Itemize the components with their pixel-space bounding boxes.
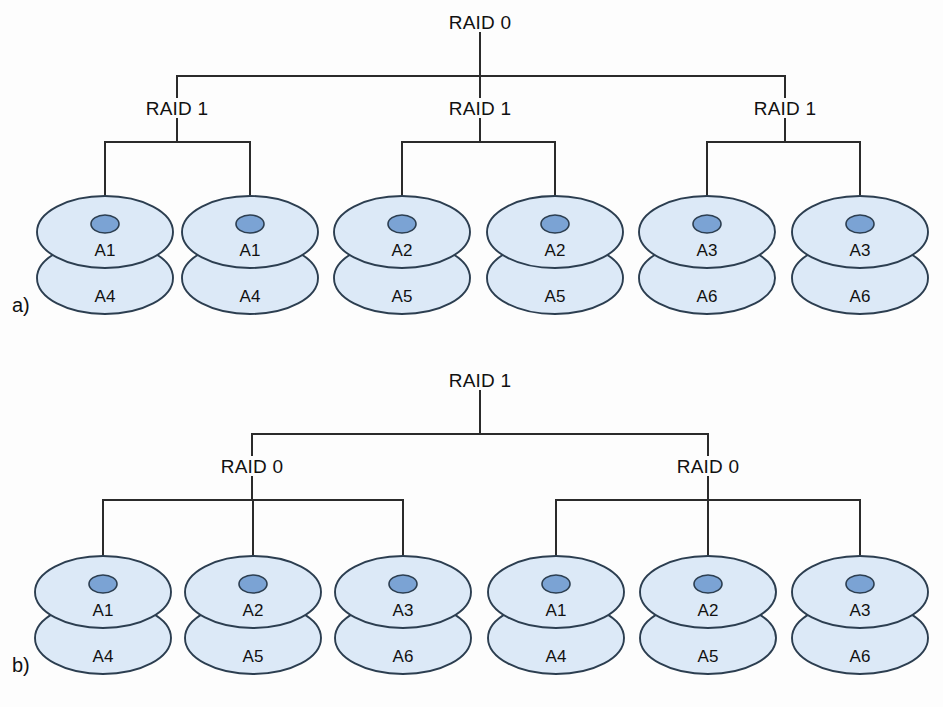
panel-b-disk-2-spindle-hub — [389, 575, 417, 593]
panel-b-disk-5-spindle-hub — [846, 575, 874, 593]
panel-b-disk-4-spindle-hub — [694, 575, 722, 593]
raid1-group-left: RAID 1 — [141, 99, 213, 118]
panel-a-disk-2-bottom-block: A5 — [392, 288, 413, 305]
raid1-root: RAID 1 — [444, 371, 516, 390]
panel-b-disk-0-spindle-hub — [89, 575, 117, 593]
panel-b-label: b) — [12, 655, 30, 675]
panel-a-disk-0-bottom-block: A4 — [95, 288, 116, 305]
panel-a-disk-1-top-block: A1 — [240, 242, 261, 259]
panel-a-label: a) — [12, 295, 30, 315]
panel-b-disk-2-bottom-block: A6 — [393, 648, 414, 665]
panel-a-disk-2-spindle-hub — [388, 215, 416, 233]
panel-b-disk-1-top-block: A2 — [243, 602, 264, 619]
raid0-root: RAID 0 — [444, 13, 516, 32]
raid-diagram-figure: a)RAID 0RAID 1RAID 1RAID 1A1A4A1A4A2A5A2… — [0, 0, 943, 707]
panel-a-disk-2-top-block: A2 — [392, 242, 413, 259]
panel-a-disk-5-bottom-block: A6 — [850, 288, 871, 305]
panel-b-disk-0-bottom-block: A4 — [93, 648, 114, 665]
panel-b-disk-0-top-block: A1 — [93, 602, 114, 619]
panel-b-disk-3-top-block: A1 — [546, 602, 567, 619]
raid1-group-right: RAID 1 — [749, 99, 821, 118]
panel-a-disk-4-top-block: A3 — [697, 242, 718, 259]
panel-b-disk-5-top-block: A3 — [850, 602, 871, 619]
panel-b-disk-1-bottom-block: A5 — [243, 648, 264, 665]
panel-b-disk-1-spindle-hub — [239, 575, 267, 593]
panel-a-disk-0-spindle-hub — [91, 215, 119, 233]
panel-b-disk-3-spindle-hub — [542, 575, 570, 593]
panel-b-disk-4-top-block: A2 — [698, 602, 719, 619]
panel-a-disk-3-spindle-hub — [541, 215, 569, 233]
panel-b-disk-3-bottom-block: A4 — [546, 648, 567, 665]
panel-a-disk-4-spindle-hub — [693, 215, 721, 233]
panel-b-disk-5-bottom-block: A6 — [850, 648, 871, 665]
panel-a-disk-0-top-block: A1 — [95, 242, 116, 259]
raid1-group-middle: RAID 1 — [444, 99, 516, 118]
panel-a-disk-3-top-block: A2 — [545, 242, 566, 259]
panel-a-disk-1-spindle-hub — [236, 215, 264, 233]
raid0-group-left: RAID 0 — [216, 457, 288, 476]
panel-a-disk-3-bottom-block: A5 — [545, 288, 566, 305]
panel-b-disk-2-top-block: A3 — [393, 602, 414, 619]
panel-a-disk-1-bottom-block: A4 — [240, 288, 261, 305]
raid0-group-right: RAID 0 — [672, 457, 744, 476]
panel-a-disk-5-spindle-hub — [846, 215, 874, 233]
panel-b-disk-4-bottom-block: A5 — [698, 648, 719, 665]
panel-a-disk-4-bottom-block: A6 — [697, 288, 718, 305]
panel-a-disk-5-top-block: A3 — [850, 242, 871, 259]
